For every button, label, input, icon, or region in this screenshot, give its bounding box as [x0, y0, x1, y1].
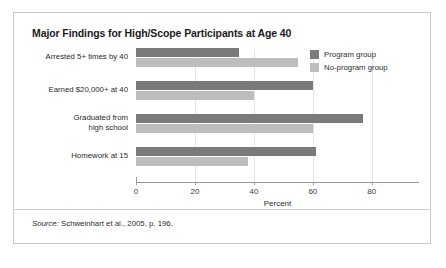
x-axis-tick-label: 60	[308, 187, 317, 196]
source-note: Source: Schweinhart et al., 2005, p. 196…	[32, 219, 173, 228]
bar-program	[136, 48, 239, 57]
source-divider	[14, 209, 430, 210]
legend-item-program: Program group	[310, 50, 388, 59]
bar-program	[136, 81, 313, 90]
category-label-line: Graduated from	[0, 113, 128, 123]
bar-no-program	[136, 91, 254, 100]
bar-program	[136, 147, 316, 156]
figure-title: Major Findings for High/Scope Participan…	[32, 27, 291, 39]
legend-swatch-program-icon	[310, 50, 319, 59]
figure-container: Major Findings for High/Scope Participan…	[13, 12, 431, 244]
x-axis-tick-label: 40	[249, 187, 258, 196]
legend-item-no-program: No-program group	[310, 63, 388, 72]
legend-label-program: Program group	[324, 50, 376, 59]
category-label-line: high school	[0, 123, 128, 133]
source-note-text: Schweinhart et al., 2005, p. 196.	[59, 219, 173, 228]
bar-no-program	[136, 157, 248, 166]
x-axis-tick-label: 0	[134, 187, 138, 196]
category-label: Arrested 5+ times by 40	[0, 52, 128, 62]
x-axis-title: Percent	[136, 199, 419, 208]
x-axis-line	[136, 182, 419, 183]
x-axis-tick	[372, 182, 373, 185]
category-label-line: Arrested 5+ times by 40	[0, 52, 128, 62]
bar-program	[136, 114, 363, 123]
category-label: Graduated fromhigh school	[0, 113, 128, 132]
source-note-label: Source:	[32, 219, 59, 228]
x-axis-tick	[195, 182, 196, 185]
bar-no-program	[136, 124, 313, 133]
legend-swatch-no-program-icon	[310, 63, 319, 72]
category-label: Homework at 15	[0, 151, 128, 161]
x-axis-tick	[136, 182, 137, 185]
chart-legend: Program group No-program group	[310, 50, 388, 76]
legend-label-no-program: No-program group	[324, 63, 388, 72]
category-label-line: Homework at 15	[0, 151, 128, 161]
category-label-line: Earned $20,000+ at 40	[0, 85, 128, 95]
x-axis-tick-label: 80	[367, 187, 376, 196]
x-axis-tick-label: 20	[190, 187, 199, 196]
x-axis-tick	[254, 182, 255, 185]
x-axis-tick	[313, 182, 314, 185]
bar-no-program	[136, 58, 298, 67]
category-label: Earned $20,000+ at 40	[0, 85, 128, 95]
